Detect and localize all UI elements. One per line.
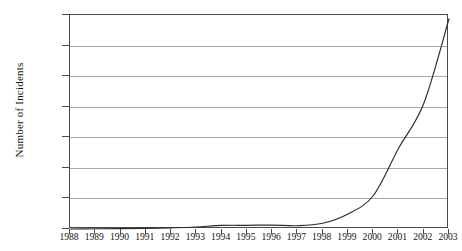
x-tick-mark-2000: [372, 229, 373, 234]
x-tick-mark-1996: [271, 229, 272, 234]
x-tick-mark-1998: [322, 229, 323, 234]
x-tick-mark-2003: [448, 229, 449, 234]
y-tick-mark-20000: [62, 197, 69, 198]
x-tick-mark-1995: [246, 229, 247, 234]
y-tick-mark-120000: [62, 45, 69, 46]
y-tick-mark-60000: [62, 136, 69, 137]
y-tick-mark-80000: [62, 106, 69, 107]
x-tick-mark-2001: [397, 229, 398, 234]
y-axis-title: Number of Incidents: [13, 35, 25, 185]
y-tick-mark-140000: [62, 14, 69, 15]
x-tick-mark-1994: [221, 229, 222, 234]
y-tick-mark-100000: [62, 75, 69, 76]
x-tick-mark-1990: [120, 229, 121, 234]
x-tick-mark-2002: [423, 229, 424, 234]
plot-area: [69, 14, 448, 228]
incident-curve-path: [70, 19, 449, 229]
x-tick-mark-1999: [347, 229, 348, 234]
incident-curve: [70, 15, 449, 229]
x-tick-mark-1988: [69, 229, 70, 234]
x-tick-mark-1991: [145, 229, 146, 234]
x-tick-mark-1997: [296, 229, 297, 234]
y-tick-mark-0: [62, 228, 69, 229]
y-tick-mark-40000: [62, 167, 69, 168]
x-tick-mark-1993: [195, 229, 196, 234]
x-tick-mark-1989: [94, 229, 95, 234]
x-tick-mark-1992: [170, 229, 171, 234]
x-tick-label-2003: 2003: [426, 232, 462, 242]
